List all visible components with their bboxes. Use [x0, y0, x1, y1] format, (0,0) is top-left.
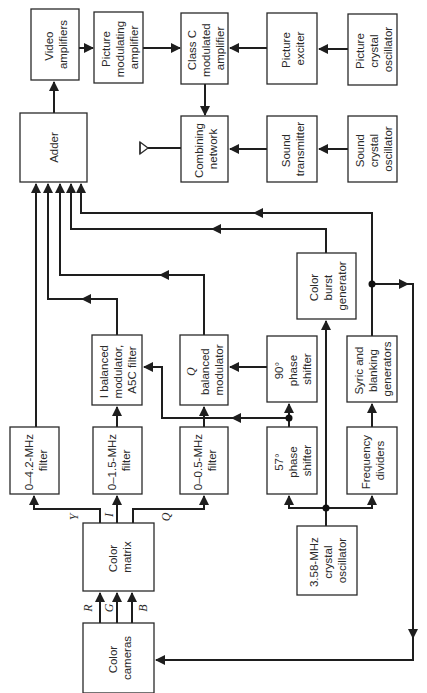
- signal-label-b: B: [136, 604, 150, 612]
- block-sound-transmitter: Sound transmitter: [267, 116, 317, 182]
- block-color-cameras: Color cameras: [83, 623, 154, 693]
- block-frequency-dividers: Frequency dividers: [347, 427, 397, 494]
- wire-osc-to-57: [289, 496, 326, 508]
- block-sync-blanking-generators: Syric and blanking generators: [347, 336, 397, 402]
- block-picture-exciter: Picture exciter: [267, 13, 317, 84]
- block-adder: Adder: [20, 113, 87, 182]
- block-filter-4-2mhz: 0–4.2-MHz filter: [10, 427, 59, 494]
- signal-label-q: Q: [159, 512, 173, 521]
- antenna-icon: [140, 142, 148, 154]
- block-57-phase-shifter: 57° phase shifter: [267, 427, 317, 494]
- block-color-matrix: Color matrix: [83, 523, 154, 591]
- block-3-58mhz-crystal-oscillator: 3.58-MHz crystal oscillator: [297, 526, 357, 595]
- junction-osc: [323, 505, 330, 512]
- wire-imod-to-adder: [48, 184, 117, 335]
- block-color-burst-generator: Color burst generator: [297, 253, 356, 319]
- block-picture-modulating-amplifier: Picture modulating amplifier: [94, 12, 143, 83]
- block-filter-0-5mhz: 0–0.5-MHz filter: [180, 427, 228, 494]
- svg-text:Sound crystal osci: Sound crystal oscillator: [354, 126, 394, 172]
- signal-label-r: R: [81, 604, 95, 613]
- junction-57: [286, 415, 293, 422]
- block-video-amplifiers: Video amplifiers: [31, 9, 79, 80]
- svg-text:Picture crystal os: Picture crystal oscillator: [354, 27, 394, 73]
- signal-label-i: I: [102, 512, 116, 518]
- junction-sync: [369, 281, 376, 288]
- block-picture-crystal-oscillator: Picture crystal oscillator: [348, 14, 397, 85]
- block-sound-crystal-oscillator: Sound crystal oscillator: [348, 116, 397, 182]
- block-diagram: Video amplifiers Picture modulating ampl…: [0, 0, 427, 693]
- wire-burst-to-adder: [71, 184, 326, 253]
- block-i-balanced-modulator: I balanced modulator, A5C filter: [92, 335, 142, 405]
- svg-text:Class C modulated: Class C modulated amplifier: [186, 20, 226, 77]
- signal-label-g: G: [102, 603, 116, 612]
- block-class-c-modulated-amplifier: Class C modulated amplifier: [181, 13, 228, 84]
- signal-label-y: Y: [67, 512, 81, 520]
- block-q-balanced-modulator: Q balanced modulator: [180, 335, 228, 405]
- block-90-phase-shifter: 90° phase shifter: [267, 336, 317, 402]
- block-combining-network: Combining network: [181, 116, 228, 182]
- wire-osc-to-freqdiv: [326, 496, 372, 508]
- block-filter-1-5mhz: 0–1.5-MHz filter: [93, 427, 142, 494]
- svg-text:Syric and blanking: Syric and blanking generators: [353, 341, 393, 396]
- svg-text:I balanced modulator,: I balanced modulator, A5C filter: [98, 342, 138, 399]
- svg-text:Adder: Adder: [48, 132, 60, 163]
